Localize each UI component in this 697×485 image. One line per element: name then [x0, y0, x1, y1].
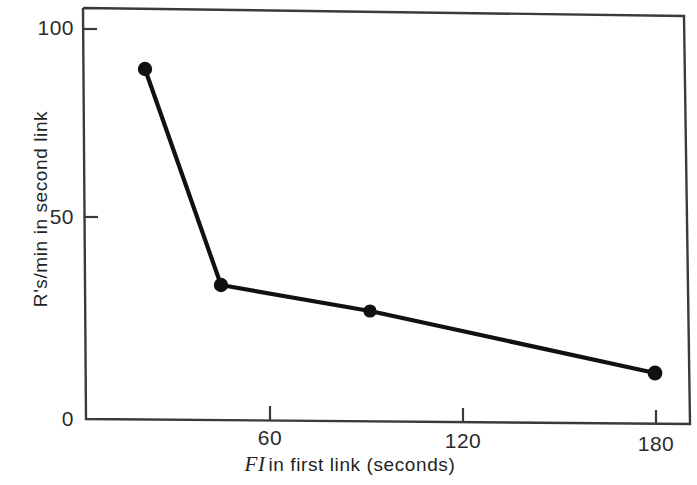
- y-tick-label-100: 100: [20, 16, 74, 40]
- x-tick-label-180: 180: [625, 432, 687, 456]
- data-point-markers: [138, 62, 663, 381]
- y-tick-label-0: 0: [20, 407, 74, 431]
- x-tick-label-120: 120: [432, 429, 494, 453]
- data-point-1: [138, 62, 152, 76]
- y-axis-title: R's/min in second link: [30, 94, 52, 324]
- figure-root: 100 50 0 60 120 180 R's/min in second li…: [0, 0, 697, 485]
- plot-area: [0, 0, 697, 485]
- x-tick-label-60: 60: [240, 426, 300, 450]
- data-point-4: [648, 366, 663, 381]
- x-axis-title-rest: in first link (seconds): [268, 454, 455, 475]
- x-axis-title: FIin first link (seconds): [120, 452, 580, 477]
- data-point-2: [214, 278, 228, 292]
- data-point-3: [363, 304, 376, 317]
- x-axis-title-symbol: FI: [245, 452, 269, 476]
- data-series-line: [145, 69, 655, 373]
